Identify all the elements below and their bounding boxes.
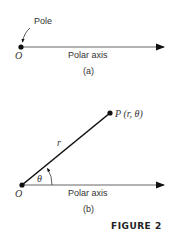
radius-label: r	[57, 137, 61, 148]
point-p-label: P (r, θ)	[114, 108, 143, 120]
origin-label-a: O	[15, 50, 22, 61]
point-p	[107, 110, 112, 115]
pole-pointer-arrow	[23, 28, 31, 42]
radius-line	[22, 113, 110, 185]
pole-point	[18, 44, 23, 49]
pole-label: Pole	[34, 16, 52, 26]
polar-axis-label-b: Polar axis	[68, 188, 108, 198]
polar-axis-label-a: Polar axis	[68, 50, 108, 60]
panel-b: P (r, θ) r θ O Polar axis (b)	[15, 108, 164, 214]
caption-b: (b)	[83, 204, 94, 214]
polar-coordinates-diagram: Pole O Polar axis (a) P (r, θ) r θ O Pol…	[0, 0, 173, 250]
panel-a: Pole O Polar axis (a)	[15, 16, 164, 76]
origin-point-b	[19, 182, 24, 187]
figure-label: FIGURE 2	[111, 221, 162, 231]
caption-a: (a)	[83, 66, 94, 76]
angle-label: θ	[37, 173, 42, 184]
origin-label-b: O	[15, 188, 22, 199]
angle-arc	[48, 169, 53, 186]
